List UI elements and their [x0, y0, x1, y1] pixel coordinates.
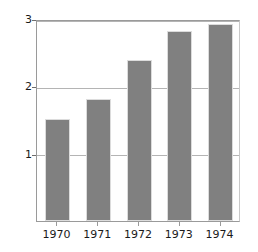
bar[interactable]: [86, 99, 111, 221]
bar-chart: Billions of pounds 123 19701971197219731…: [0, 0, 258, 252]
x-axis-tickmark: [220, 222, 221, 226]
bar[interactable]: [167, 31, 192, 221]
x-axis-tick-label: 1970: [36, 228, 77, 242]
x-axis-tickmark: [179, 222, 180, 226]
x-axis-tick-label: 1972: [118, 228, 159, 242]
x-axis-tick-label: 1973: [158, 228, 199, 242]
x-axis-tick-label: 1974: [199, 228, 240, 242]
x-axis-tickmark: [97, 222, 98, 226]
bar[interactable]: [208, 24, 233, 221]
bar[interactable]: [127, 60, 152, 221]
x-axis-tick-label: 1971: [77, 228, 118, 242]
x-axis-tick-labels: 19701971197219731974: [36, 228, 240, 244]
bars-layer: [37, 21, 239, 221]
plot-area: [36, 20, 240, 222]
x-axis-tickmark: [56, 222, 57, 226]
x-axis-tickmark: [138, 222, 139, 226]
bar[interactable]: [45, 119, 70, 221]
